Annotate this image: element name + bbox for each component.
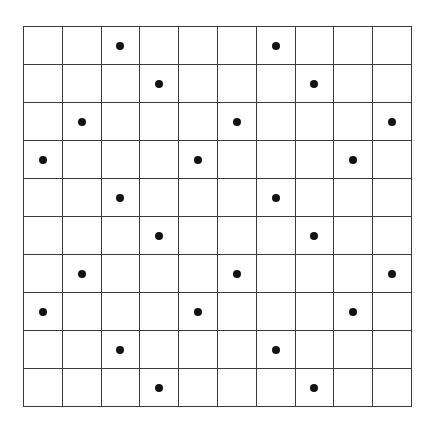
grid-cell-empty <box>334 103 373 141</box>
grid-cell-empty <box>101 217 140 255</box>
grid-row <box>24 141 412 179</box>
grid-cell-empty <box>334 65 373 103</box>
grid-cell-empty <box>24 103 63 141</box>
grid-cell-empty <box>217 179 256 217</box>
grid-cell-empty <box>256 255 295 293</box>
dot-marker-icon <box>194 156 202 164</box>
grid-cell-with-dot <box>101 179 140 217</box>
grid-cell-empty <box>62 369 101 407</box>
grid-cell-with-dot <box>101 27 140 65</box>
grid-cell-empty <box>217 217 256 255</box>
grid-cell-empty <box>140 141 179 179</box>
dot-marker-icon <box>310 384 318 392</box>
grid-cell-empty <box>217 369 256 407</box>
grid-cell-empty <box>373 293 412 331</box>
grid-cell-with-dot <box>295 65 334 103</box>
grid-cell-empty <box>373 179 412 217</box>
grid-cell-with-dot <box>373 103 412 141</box>
grid-cell-empty <box>373 27 412 65</box>
grid-cell-empty <box>24 217 63 255</box>
dot-marker-icon <box>155 384 163 392</box>
grid-cell-empty <box>62 27 101 65</box>
grid-cell-empty <box>101 65 140 103</box>
grid-cell-with-dot <box>101 331 140 369</box>
grid-cell-empty <box>62 331 101 369</box>
grid-cell-empty <box>101 369 140 407</box>
grid-cell-empty <box>62 179 101 217</box>
grid-cell-empty <box>334 255 373 293</box>
grid-cell-with-dot <box>140 369 179 407</box>
grid-cell-with-dot <box>295 369 334 407</box>
dot-marker-icon <box>194 308 202 316</box>
dot-grid-figure <box>23 26 412 407</box>
grid-cell-empty <box>101 141 140 179</box>
dot-marker-icon <box>272 346 280 354</box>
grid-cell-empty <box>295 103 334 141</box>
grid-cell-empty <box>373 217 412 255</box>
grid-cell-empty <box>62 217 101 255</box>
grid-cell-with-dot <box>373 255 412 293</box>
grid-cell-empty <box>217 293 256 331</box>
grid-cell-empty <box>24 331 63 369</box>
grid-cell-empty <box>217 27 256 65</box>
grid-cell-with-dot <box>140 217 179 255</box>
grid-cell-empty <box>140 179 179 217</box>
grid-cell-empty <box>24 179 63 217</box>
grid-cell-empty <box>179 217 218 255</box>
grid-cell-with-dot <box>217 255 256 293</box>
grid-cell-empty <box>334 179 373 217</box>
dot-marker-icon <box>272 194 280 202</box>
grid-cell-with-dot <box>179 141 218 179</box>
grid-table <box>23 26 412 407</box>
grid-cell-with-dot <box>217 103 256 141</box>
grid-cell-empty <box>295 293 334 331</box>
grid-cell-empty <box>256 103 295 141</box>
grid-cell-empty <box>62 293 101 331</box>
grid-cell-with-dot <box>179 293 218 331</box>
grid-cell-empty <box>295 27 334 65</box>
grid-cell-empty <box>295 331 334 369</box>
grid-row <box>24 27 412 65</box>
grid-cell-with-dot <box>24 141 63 179</box>
grid-row <box>24 331 412 369</box>
grid-cell-empty <box>217 141 256 179</box>
dot-marker-icon <box>39 308 47 316</box>
grid-cell-empty <box>179 331 218 369</box>
grid-row <box>24 255 412 293</box>
grid-row <box>24 217 412 255</box>
grid-row <box>24 65 412 103</box>
grid-cell-empty <box>217 331 256 369</box>
grid-body <box>24 27 412 407</box>
dot-marker-icon <box>78 270 86 278</box>
grid-cell-empty <box>373 141 412 179</box>
dot-marker-icon <box>116 42 124 50</box>
grid-cell-with-dot <box>62 103 101 141</box>
dot-marker-icon <box>388 270 396 278</box>
dot-marker-icon <box>155 80 163 88</box>
grid-cell-empty <box>140 293 179 331</box>
grid-cell-with-dot <box>256 331 295 369</box>
dot-marker-icon <box>233 118 241 126</box>
grid-cell-with-dot <box>295 217 334 255</box>
grid-cell-empty <box>373 331 412 369</box>
dot-marker-icon <box>349 156 357 164</box>
grid-cell-empty <box>140 27 179 65</box>
grid-cell-empty <box>140 331 179 369</box>
grid-cell-empty <box>256 65 295 103</box>
dot-marker-icon <box>155 232 163 240</box>
grid-cell-empty <box>101 293 140 331</box>
grid-cell-empty <box>256 293 295 331</box>
grid-cell-empty <box>256 369 295 407</box>
grid-row <box>24 293 412 331</box>
dot-marker-icon <box>116 194 124 202</box>
grid-cell-empty <box>24 255 63 293</box>
dot-marker-icon <box>388 118 396 126</box>
grid-cell-empty <box>334 27 373 65</box>
grid-cell-empty <box>62 141 101 179</box>
dot-marker-icon <box>116 346 124 354</box>
grid-cell-with-dot <box>256 179 295 217</box>
grid-cell-empty <box>179 255 218 293</box>
grid-cell-empty <box>140 255 179 293</box>
grid-cell-empty <box>334 217 373 255</box>
grid-cell-with-dot <box>140 65 179 103</box>
